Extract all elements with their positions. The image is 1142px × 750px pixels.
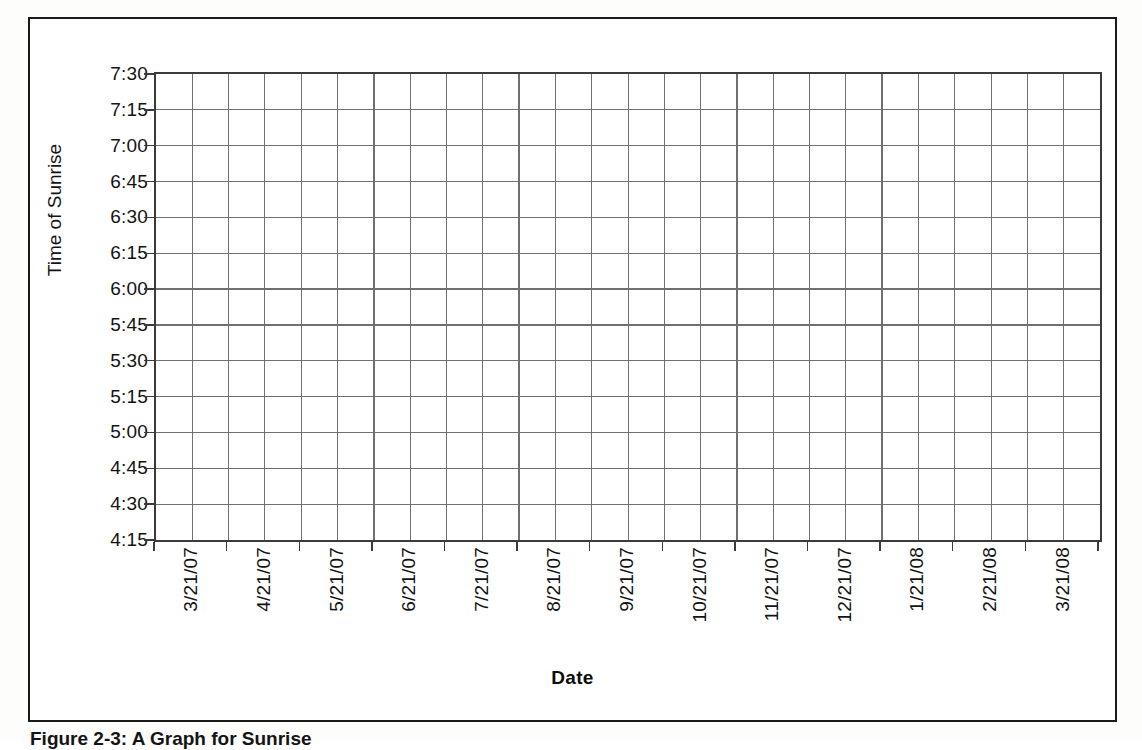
- x-axis-tick-label: 1/21/08: [906, 547, 928, 612]
- y-axis-tick-label: 4:30: [110, 493, 148, 515]
- x-axis-tick-label: 6/21/07: [398, 547, 420, 612]
- x-axis-tick-label: 3/21/07: [180, 547, 202, 612]
- x-axis-tick-label: 11/21/07: [761, 547, 783, 621]
- y-axis-tick-label: 7:15: [110, 99, 148, 121]
- x-axis-tick-label: 2/21/08: [979, 547, 1001, 612]
- x-axis-tick-label: 10/21/07: [689, 547, 711, 623]
- y-axis-tick-label: 4:45: [110, 457, 148, 479]
- x-axis-tick-label: 9/21/07: [616, 547, 638, 612]
- y-axis-tick-label: 6:15: [110, 242, 148, 264]
- x-axis-tick-label: 8/21/07: [543, 547, 565, 612]
- x-axis-tick-labels: 3/21/074/21/075/21/076/21/077/21/078/21/…: [154, 547, 1102, 667]
- figure-caption: Figure 2-3: A Graph for Sunrise: [30, 728, 312, 750]
- y-axis-tick-labels: 7:307:157:006:456:306:156:005:455:305:15…: [90, 72, 148, 542]
- y-axis-tick-label: 5:30: [110, 350, 148, 372]
- y-axis-tick-label: 4:15: [110, 529, 148, 551]
- gridlines: [156, 74, 1100, 540]
- y-axis-tick-label: 5:45: [110, 314, 148, 336]
- x-axis-tick-label: 4/21/07: [253, 547, 275, 612]
- y-axis-title: Time of Sunrise: [44, 110, 66, 310]
- y-axis-ticks: [144, 72, 156, 542]
- y-axis-tick-label: 7:30: [110, 63, 148, 85]
- x-axis-title: Date: [30, 667, 1115, 689]
- y-axis-tick-label: 6:45: [110, 171, 148, 193]
- figure-frame: 7:307:157:006:456:306:156:005:455:305:15…: [28, 17, 1117, 722]
- x-axis-tick-label: 12/21/07: [834, 547, 856, 623]
- plot-area: [154, 72, 1102, 542]
- y-axis-tick-label: 5:00: [110, 421, 148, 443]
- y-axis-tick-label: 6:00: [110, 278, 148, 300]
- y-axis-tick-label: 5:15: [110, 386, 148, 408]
- x-axis-tick-label: 3/21/08: [1052, 547, 1074, 612]
- y-axis-tick-label: 6:30: [110, 206, 148, 228]
- x-axis-tick-label: 7/21/07: [471, 547, 493, 612]
- x-axis-tick-label: 5/21/07: [326, 547, 348, 612]
- chart-area: 7:307:157:006:456:306:156:005:455:305:15…: [30, 19, 1115, 720]
- y-axis-tick-label: 7:00: [110, 135, 148, 157]
